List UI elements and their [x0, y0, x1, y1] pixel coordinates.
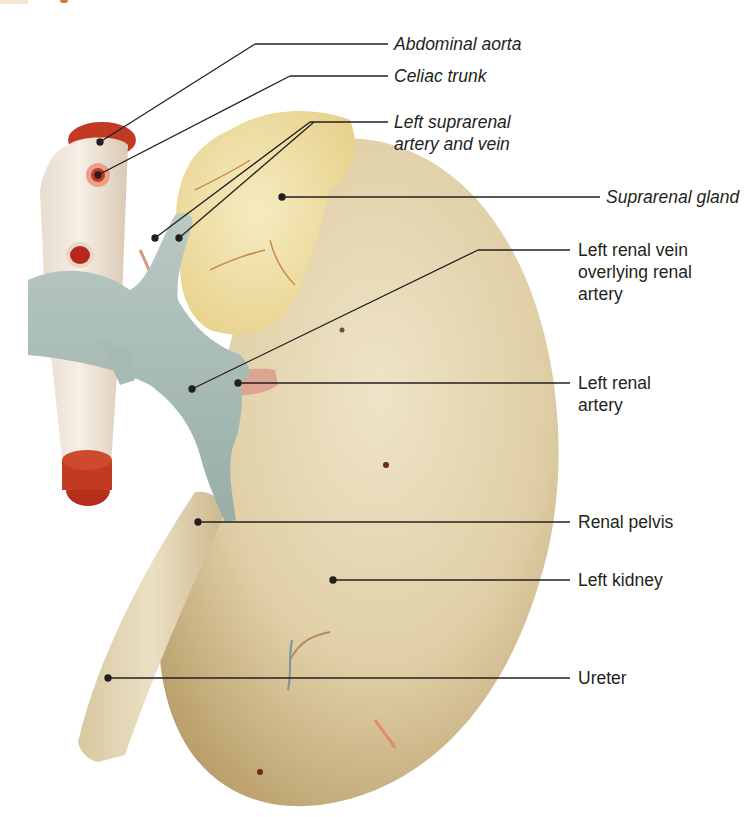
label-renal-pelvis: Renal pelvis: [578, 511, 673, 533]
label-ureter: Ureter: [578, 667, 627, 689]
label-left-renal-vein: Left renal vein overlying renal artery: [578, 239, 692, 305]
label-left-kidney: Left kidney: [578, 569, 663, 591]
label-celiac-trunk: Celiac trunk: [394, 65, 486, 87]
label-left-suprarenal-artery-vein: Left suprarenal artery and vein: [394, 111, 511, 155]
label-left-renal-artery: Left renal artery: [578, 372, 651, 416]
label-suprarenal-gland: Suprarenal gland: [606, 186, 739, 208]
label-abdominal-aorta: Abdominal aorta: [394, 33, 521, 55]
